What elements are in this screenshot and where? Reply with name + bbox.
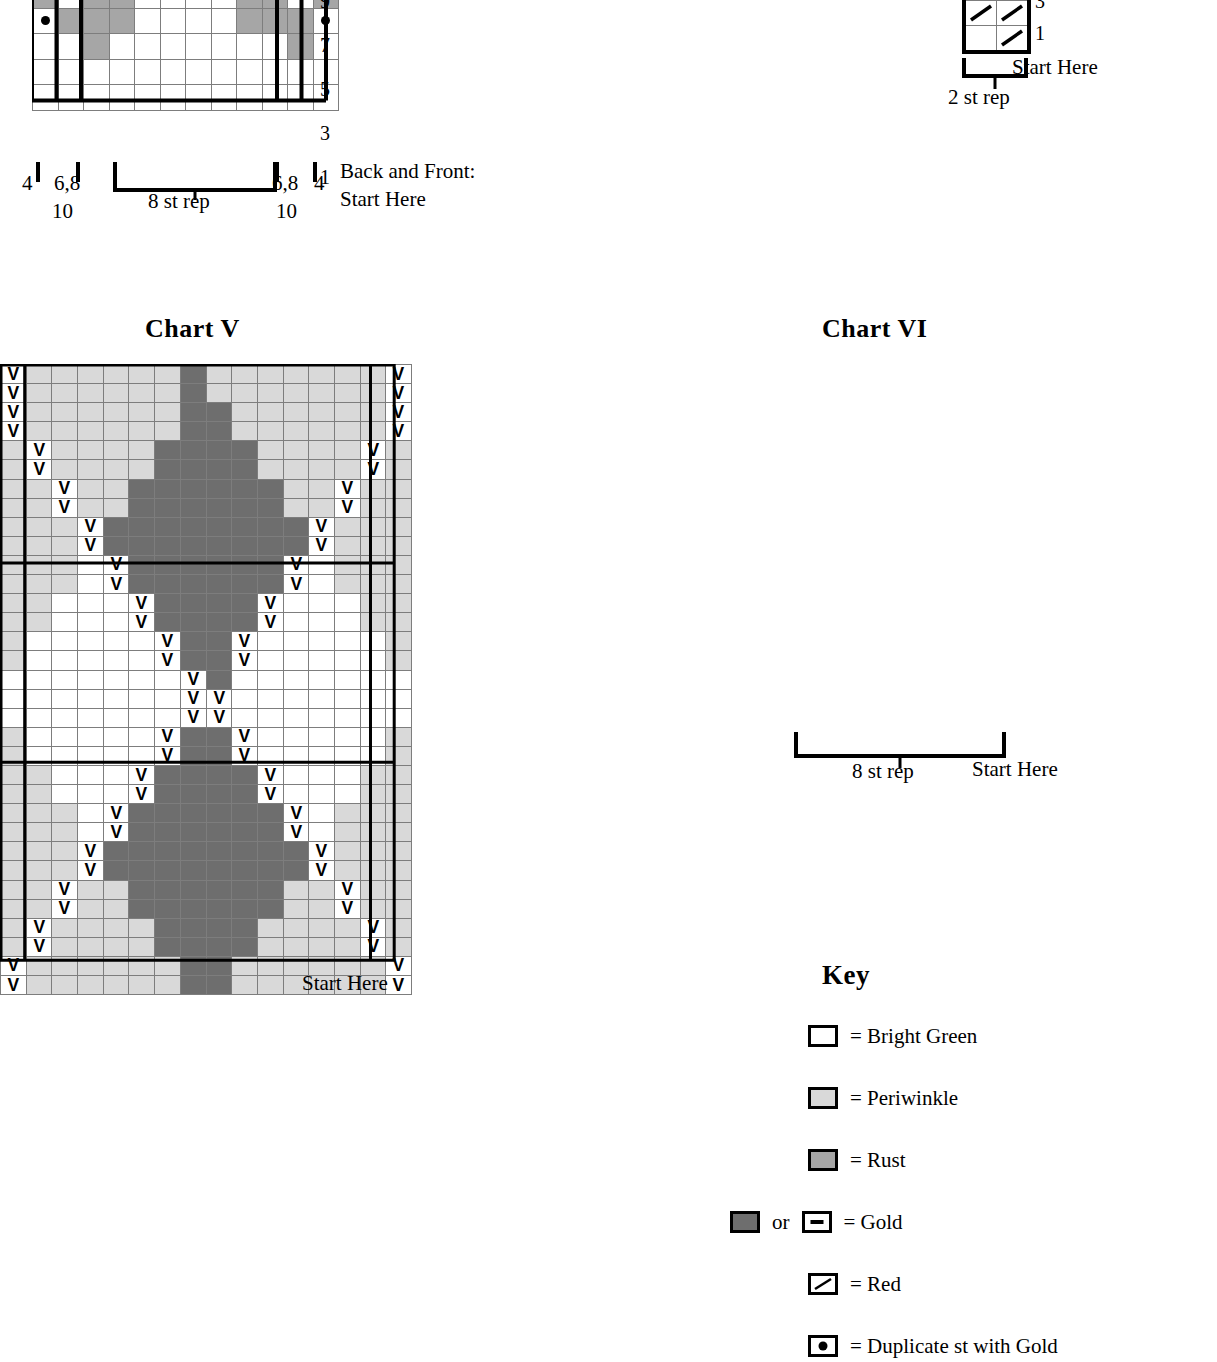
cell [103, 403, 129, 422]
cell [257, 937, 283, 956]
cell [283, 899, 309, 918]
cell [283, 460, 309, 479]
cell [78, 976, 104, 995]
cell [129, 918, 155, 937]
v-symbol: V [309, 537, 334, 555]
cell [155, 479, 181, 498]
key-label: = Rust [850, 1148, 906, 1173]
cell [52, 536, 78, 555]
cell [206, 823, 232, 842]
cell [135, 0, 161, 8]
cell [360, 651, 386, 670]
key-label: = Gold [844, 1210, 903, 1235]
chart-vi-title: Chart VI [822, 314, 927, 344]
cell [52, 517, 78, 536]
cell [78, 460, 104, 479]
cell [257, 727, 283, 746]
cell: V [386, 976, 412, 995]
cell [1, 670, 27, 689]
v-symbol: V [1, 957, 26, 975]
cell [1, 727, 27, 746]
cell [309, 479, 335, 498]
cell [160, 0, 186, 8]
cell [334, 708, 360, 727]
cell [78, 765, 104, 784]
cell [129, 422, 155, 441]
cell [206, 460, 232, 479]
cell [78, 422, 104, 441]
cell [180, 804, 206, 823]
cell [103, 651, 129, 670]
cell [160, 85, 186, 111]
cell [386, 861, 412, 880]
cell [964, 26, 997, 53]
cell [334, 651, 360, 670]
cell [180, 365, 206, 384]
cell [186, 59, 212, 85]
cell [360, 613, 386, 632]
cell [1, 441, 27, 460]
cell [211, 34, 237, 60]
cell [103, 861, 129, 880]
table-row [33, 59, 339, 85]
cell: V [52, 899, 78, 918]
table-row: VV [1, 842, 412, 861]
cell: V [78, 861, 104, 880]
cell: V [232, 651, 258, 670]
cell [283, 594, 309, 613]
cell [309, 632, 335, 651]
cell: V [78, 536, 104, 555]
key-label: = Bright Green [850, 1024, 977, 1049]
cell [26, 536, 52, 555]
cell [1, 517, 27, 536]
cell [129, 727, 155, 746]
cell [257, 956, 283, 975]
v-symbol: V [284, 804, 309, 822]
cell [109, 85, 135, 111]
cell [155, 956, 181, 975]
cell [129, 651, 155, 670]
cell [206, 517, 232, 536]
cell [257, 670, 283, 689]
cell [262, 8, 288, 34]
cell [135, 59, 161, 85]
table-row [964, 26, 1029, 53]
cell [180, 880, 206, 899]
row-number: 7 [320, 34, 330, 57]
cell [386, 594, 412, 613]
cell [103, 632, 129, 651]
cell [283, 765, 309, 784]
cell [180, 976, 206, 995]
key-item-bright-green: = Bright Green [700, 1005, 1217, 1067]
cell [78, 403, 104, 422]
cell [386, 536, 412, 555]
cell [334, 441, 360, 460]
cell [288, 59, 314, 85]
v-symbol: V [27, 938, 52, 956]
cell [180, 555, 206, 574]
cell [103, 384, 129, 403]
cell [283, 746, 309, 765]
v-symbol: V [335, 900, 360, 918]
key-title: Key [822, 960, 870, 991]
cell [206, 555, 232, 574]
cell [52, 384, 78, 403]
dot-icon [819, 1342, 828, 1351]
cell [360, 575, 386, 594]
cell [334, 670, 360, 689]
cell [206, 956, 232, 975]
cell [1, 765, 27, 784]
cell [386, 708, 412, 727]
cell [78, 670, 104, 689]
cell [33, 8, 59, 34]
cell [257, 651, 283, 670]
cell-red [997, 26, 1030, 53]
cell [129, 880, 155, 899]
cell [232, 517, 258, 536]
cell [52, 594, 78, 613]
cell [58, 34, 84, 60]
cell [309, 403, 335, 422]
cell [78, 384, 104, 403]
cell: V [360, 460, 386, 479]
cell [386, 785, 412, 804]
